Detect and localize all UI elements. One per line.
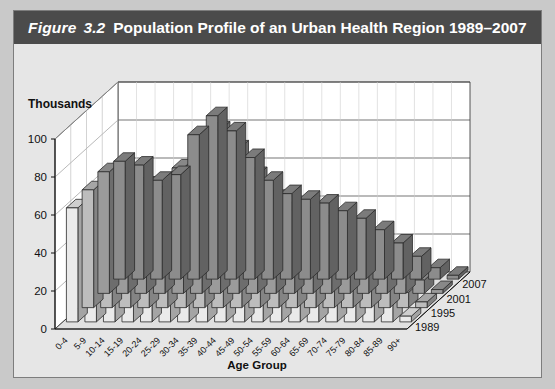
bar-side-face <box>144 157 153 280</box>
x-tick-label-80-84: 80-84 <box>343 335 366 358</box>
figure-label: Figure <box>28 19 77 37</box>
x-axis: 0-45-910-1415-1920-2425-2930-3435-3940-4… <box>53 335 403 358</box>
figure-title-text: Population Profile of an Urban Health Re… <box>113 19 526 37</box>
bar-1989-50-54 <box>299 191 320 279</box>
x-tick-label-40-44: 40-44 <box>195 335 218 358</box>
bar-front-face <box>431 290 442 294</box>
bar-front-face <box>416 302 427 308</box>
x-tick-label-45-49: 45-49 <box>213 335 236 358</box>
bar-1989-20-24 <box>188 126 209 279</box>
figure-container: Figure 3.2 Population Profile of an Urba… <box>0 0 555 389</box>
x-tick-label-75-79: 75-79 <box>324 335 347 358</box>
bar-front-face <box>82 190 93 308</box>
x-tick-label-35-39: 35-39 <box>176 335 199 358</box>
x-tick-label-20-24: 20-24 <box>120 335 143 358</box>
bar-side-face <box>329 195 338 280</box>
bar-1989-60-64 <box>336 202 357 279</box>
bar-front-face <box>66 208 77 322</box>
bar-1989-15-19 <box>169 166 190 279</box>
z-axis-label-1995: 1995 <box>431 307 455 319</box>
y-tick-label-0: 0 <box>41 323 47 335</box>
y-axis-unit-label: Thousands <box>28 97 92 111</box>
bar-side-face <box>181 166 190 279</box>
bar-side-face <box>255 149 264 279</box>
bar-front-face <box>114 161 125 279</box>
bar-front-face <box>98 172 109 294</box>
bar-side-face <box>162 172 171 279</box>
x-tick-label-25-29: 25-29 <box>139 335 162 358</box>
x-tick-label-90+: 90+ <box>385 335 403 353</box>
x-tick-label-50-54: 50-54 <box>232 335 255 358</box>
x-axis-title: Age Group <box>227 359 286 371</box>
bar-1989-40-44 <box>262 172 283 279</box>
bar-1989-25-29 <box>206 107 227 279</box>
bar-side-face <box>292 185 301 279</box>
y-tick-label-40: 40 <box>34 247 47 259</box>
bar-front-face <box>400 316 411 322</box>
figure-number: 3.2 <box>84 19 106 37</box>
y-tick-label-100: 100 <box>28 133 47 145</box>
bar-side-face <box>273 172 282 279</box>
z-axis-label-1989: 1989 <box>415 321 439 333</box>
bar-side-face <box>366 210 375 279</box>
x-tick-label-15-19: 15-19 <box>102 335 125 358</box>
x-tick-label-60-64: 60-64 <box>269 335 292 358</box>
y-tick-label-20: 20 <box>34 285 47 297</box>
z-axis-label-2007: 2007 <box>462 278 486 290</box>
bar-side-face <box>310 191 319 279</box>
bar-front-face <box>447 275 458 279</box>
bar-1989-45-49 <box>280 185 301 279</box>
bar-side-face <box>385 221 394 279</box>
bar-1989-30-34 <box>225 122 246 279</box>
bar-1989-55-59 <box>317 195 338 280</box>
population-profile-3d-bar-chart: 100806040200 0-45-910-1415-1920-2425-293… <box>14 44 541 377</box>
figure-title-bar: Figure 3.2 Population Profile of an Urba… <box>14 11 541 44</box>
bar-side-face <box>125 153 134 279</box>
x-tick-label-0-4: 0-4 <box>53 335 69 351</box>
bar-side-face <box>199 126 208 279</box>
bar-1989-65-69 <box>354 210 375 279</box>
bar-side-face <box>218 107 227 279</box>
bar-side-face <box>347 202 356 279</box>
x-tick-label-10-14: 10-14 <box>83 335 106 358</box>
chart-panel: 100806040200 0-45-910-1415-1920-2425-293… <box>14 44 541 377</box>
bar-1989-10-14 <box>151 172 172 279</box>
z-axis-label-2001: 2001 <box>447 293 471 305</box>
bar-1989-70-74 <box>373 221 394 279</box>
bar-1989-5-9 <box>132 157 153 280</box>
y-tick-label-60: 60 <box>34 209 47 221</box>
x-tick-label-85-89: 85-89 <box>361 335 384 358</box>
y-tick-label-80: 80 <box>34 171 47 183</box>
bar-side-face <box>236 122 245 279</box>
x-tick-label-30-34: 30-34 <box>157 335 180 358</box>
bar-1989-0-4 <box>114 153 135 279</box>
bar-1989-35-39 <box>243 149 264 279</box>
x-tick-label-55-59: 55-59 <box>250 335 273 358</box>
bar-1989-75-79 <box>392 234 413 279</box>
x-tick-label-65-69: 65-69 <box>287 335 310 358</box>
x-tick-label-70-74: 70-74 <box>306 335 329 358</box>
